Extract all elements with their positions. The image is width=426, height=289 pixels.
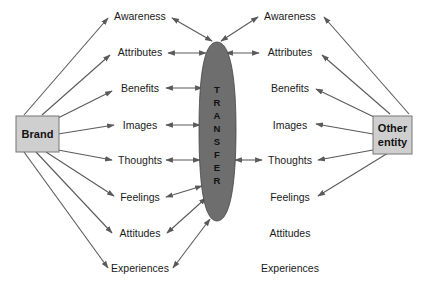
transfer-letter: A xyxy=(214,110,221,121)
transfer-letter: S xyxy=(214,136,220,147)
right-item-thoughts: Thoughts xyxy=(268,154,312,166)
left-items: Awareness Attributes Benefits Images Tho… xyxy=(111,10,169,274)
transfer-ellipse: T R A N S F E R xyxy=(199,42,236,221)
left-item-thoughts: Thoughts xyxy=(118,154,162,166)
left-item-awareness: Awareness xyxy=(114,10,166,22)
right-item-feelings: Feelings xyxy=(270,191,310,203)
right-item-attitudes: Attitudes xyxy=(270,227,311,239)
transfer-letter: R xyxy=(214,97,221,108)
transfer-letter: R xyxy=(214,175,221,186)
left-item-images: Images xyxy=(123,119,157,131)
right-items: Awareness Attributes Benefits Images Tho… xyxy=(261,10,319,274)
transfer-letter: F xyxy=(214,149,220,160)
left-item-attitudes: Attitudes xyxy=(120,227,161,239)
transfer-letter: T xyxy=(214,84,220,95)
transfer-letter: N xyxy=(214,123,221,134)
left-item-experiences: Experiences xyxy=(111,262,169,274)
brand-label: Brand xyxy=(22,128,54,140)
other-entity-box: Other entity xyxy=(373,116,412,154)
brand-box: Brand xyxy=(16,116,59,152)
brand-knowledge-transfer-diagram: T R A N S F E R Brand Other entity Aware… xyxy=(0,0,426,289)
other-entity-label-line2: entity xyxy=(378,136,408,148)
left-item-attributes: Attributes xyxy=(118,46,162,58)
right-item-experiences: Experiences xyxy=(261,262,319,274)
right-item-awareness: Awareness xyxy=(264,10,316,22)
other-entity-label-line1: Other xyxy=(378,122,408,134)
left-item-benefits: Benefits xyxy=(121,82,159,94)
right-item-benefits: Benefits xyxy=(271,82,309,94)
right-item-images: Images xyxy=(273,119,307,131)
transfer-letter: E xyxy=(214,162,220,173)
other-entity-arrows xyxy=(316,17,409,196)
right-item-attributes: Attributes xyxy=(268,46,312,58)
left-item-feelings: Feelings xyxy=(120,191,160,203)
